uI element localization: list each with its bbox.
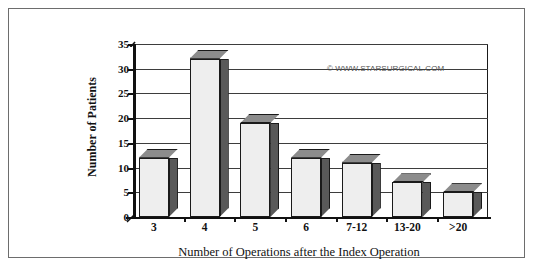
gridline bbox=[133, 44, 488, 45]
y-axis-tick-mark bbox=[128, 93, 134, 95]
y-axis-tick-mark bbox=[128, 217, 134, 219]
y-axis-title-wrapper: Number of Patients bbox=[9, 61, 33, 211]
y-axis-tick-mark bbox=[128, 168, 134, 170]
bar-front-face bbox=[291, 158, 321, 217]
x-axis-tick-label: 6 bbox=[303, 222, 309, 234]
bar-side-face bbox=[220, 59, 229, 217]
x-axis-tick-label: 4 bbox=[202, 222, 208, 234]
bar-side-face bbox=[321, 158, 330, 217]
x-axis-tick-mark bbox=[234, 217, 236, 222]
bar bbox=[443, 192, 473, 217]
x-axis-tick-label: 7-12 bbox=[346, 222, 367, 234]
x-axis-tick-mark bbox=[437, 217, 439, 222]
bar-front-face bbox=[443, 192, 473, 217]
bar-front-face bbox=[190, 59, 220, 217]
x-axis-tick-labels: 34567-1213-20>20 bbox=[133, 222, 488, 242]
bar bbox=[139, 158, 169, 217]
bar-front-face bbox=[342, 163, 372, 217]
gridline bbox=[133, 118, 488, 119]
bar-side-face bbox=[270, 123, 279, 217]
x-axis-tick-label: 5 bbox=[252, 222, 258, 234]
bar bbox=[342, 163, 372, 217]
gridline bbox=[133, 143, 488, 144]
bar-front-face bbox=[240, 123, 270, 217]
figure-container: 05101520253035 34567-1213-20>20 Number o… bbox=[0, 0, 546, 269]
x-axis-tick-mark bbox=[184, 217, 186, 222]
x-axis-title: Number of Operations after the Index Ope… bbox=[99, 245, 499, 260]
watermark-label: © WWW.STARSURGICAL.COM bbox=[327, 64, 444, 73]
bar bbox=[291, 158, 321, 217]
bar-front-face bbox=[392, 182, 422, 217]
y-axis-tick-mark bbox=[128, 143, 134, 145]
figure-border: 05101520253035 34567-1213-20>20 Number o… bbox=[8, 8, 525, 258]
bar bbox=[190, 59, 220, 217]
y-axis-tick-labels: 05101520253035 bbox=[103, 9, 129, 269]
x-axis-tick-mark bbox=[285, 217, 287, 222]
bar bbox=[240, 123, 270, 217]
bar bbox=[392, 182, 422, 217]
bar-front-face bbox=[139, 158, 169, 217]
gridline bbox=[133, 93, 488, 94]
y-axis-title: Number of Patients bbox=[85, 47, 101, 207]
x-axis-tick-mark bbox=[386, 217, 388, 222]
y-axis-tick-mark bbox=[128, 69, 134, 71]
x-axis-tick-label: 3 bbox=[151, 222, 157, 234]
x-axis-tick-label: 13-20 bbox=[394, 222, 421, 234]
y-axis-tick-mark bbox=[128, 118, 134, 120]
x-axis-tick-mark bbox=[336, 217, 338, 222]
bar-side-face bbox=[169, 158, 178, 217]
x-axis-tick-label: >20 bbox=[449, 222, 467, 234]
y-axis-tick-mark bbox=[128, 192, 134, 194]
bar-side-face bbox=[372, 163, 381, 217]
y-axis-tick-mark bbox=[128, 44, 134, 46]
